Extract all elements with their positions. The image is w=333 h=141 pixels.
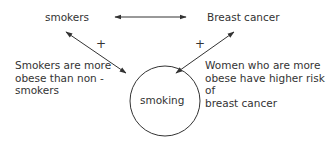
right-edge-sign: +	[195, 38, 205, 50]
left-annotation-line-3: smokers	[15, 84, 111, 97]
node-smokers: smokers	[45, 11, 89, 23]
right-annotation-line-1: Women who are more	[205, 59, 333, 72]
left-edge-sign: +	[96, 38, 106, 50]
right-annotation: Women who are more obese have higher ris…	[205, 59, 333, 109]
node-smoking: smoking	[140, 94, 184, 106]
left-annotation-line-2: obese than non -	[15, 72, 111, 85]
right-annotation-line-2: obese have higher risk of	[205, 72, 333, 97]
left-annotation-line-1: Smokers are more	[15, 59, 111, 72]
node-breast-cancer: Breast cancer	[207, 11, 280, 23]
right-annotation-line-3: breast cancer	[205, 97, 333, 110]
left-annotation: Smokers are more obese than non - smoker…	[15, 59, 111, 97]
